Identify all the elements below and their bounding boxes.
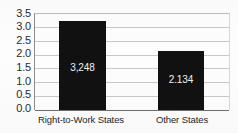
y-axis-tick-label: 2.0 <box>0 48 31 59</box>
x-axis-category-label: Other States <box>142 114 222 125</box>
x-axis-category-label: Right-to-Work States <box>28 114 134 125</box>
y-axis-tick-label: 1.0 <box>0 76 31 87</box>
x-axis-labels: Right-to-Work States Other States <box>34 114 228 130</box>
bar-value-label: 2.134 <box>158 75 204 85</box>
plot-area: 3,248 2.134 <box>34 13 230 110</box>
y-axis-tick-label: 3.5 <box>0 8 31 19</box>
bar-chart: 3.5 3.0 2.5 2.0 1.5 1.0 0.5 0.0 3,248 2.… <box>0 0 238 133</box>
y-axis-tick-label: 0.5 <box>0 89 31 100</box>
bar-value-label: 3,248 <box>59 63 106 73</box>
bar-series: 3,248 2.134 <box>35 14 229 110</box>
bar-group: 3,248 <box>59 14 106 110</box>
y-axis-tick-label: 1.5 <box>0 62 31 73</box>
y-axis-tick-label: 2.5 <box>0 35 31 46</box>
bar-group: 2.134 <box>158 14 204 110</box>
y-axis-tick-label: 0.0 <box>0 103 31 114</box>
y-axis-tick-label: 3.0 <box>0 21 31 32</box>
x-axis-baseline <box>35 110 229 111</box>
